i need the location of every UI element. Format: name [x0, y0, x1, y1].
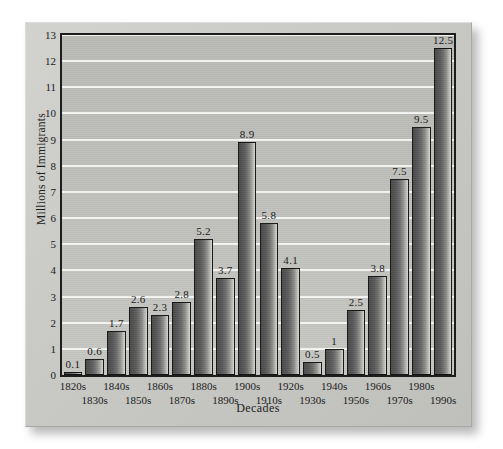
x-tick-label: 1840s: [103, 380, 129, 392]
y-tick-label: 6: [51, 212, 57, 224]
bar-value-label: 0.5: [298, 348, 326, 360]
bar-value-label: 0.1: [59, 358, 87, 370]
bar: [194, 239, 213, 375]
bar: [325, 349, 344, 375]
bar-value-label: 12.5: [429, 34, 457, 46]
bar-value-label: 2.3: [146, 301, 174, 313]
bar-value-label: 0.6: [81, 345, 109, 357]
bar: [216, 278, 235, 375]
bar-value-label: 1: [320, 335, 348, 347]
x-tick-label: 1960s: [365, 380, 391, 392]
y-tick-label: 7: [51, 186, 57, 198]
screenshot-root: 012345678910111213 Millions of Immigrant…: [0, 0, 503, 449]
x-tick-label: 1980s: [408, 380, 434, 392]
bar-value-label: 5.8: [255, 209, 283, 221]
x-tick-label: 1940s: [321, 380, 347, 392]
bar-value-label: 2.8: [168, 288, 196, 300]
bar-value-label: 9.5: [407, 113, 435, 125]
bar: [151, 315, 170, 375]
x-tick-label: 1920s: [278, 380, 304, 392]
bar: [347, 310, 366, 375]
bar: [303, 362, 322, 375]
bar-value-label: 3.8: [364, 262, 392, 274]
bar: [85, 359, 104, 375]
bar-value-label: 8.9: [233, 128, 261, 140]
x-axis-title: Decades: [60, 401, 456, 416]
bar: [412, 127, 431, 375]
y-tick-label: 2: [51, 317, 57, 329]
gridline: [62, 34, 454, 36]
bar: [107, 331, 126, 375]
y-tick-label: 5: [51, 238, 57, 250]
y-tick-label: 1: [51, 343, 57, 355]
gridline: [62, 60, 454, 62]
bar-value-label: 5.2: [190, 225, 218, 237]
bar: [390, 179, 409, 375]
bar-value-label: 7.5: [386, 165, 414, 177]
bar: [281, 268, 300, 375]
y-tick-label: 12: [45, 55, 56, 67]
bar-value-label: 4.1: [277, 254, 305, 266]
y-tick-label: 4: [51, 264, 57, 276]
bar-value-label: 3.7: [211, 264, 239, 276]
bar: [260, 223, 279, 375]
y-tick-label: 8: [51, 160, 57, 172]
gridline: [62, 112, 454, 114]
bar: [368, 276, 387, 375]
y-tick-label: 3: [51, 291, 57, 303]
x-tick-label: 1860s: [147, 380, 173, 392]
y-tick-label: 13: [45, 29, 56, 41]
x-tick-label: 1820s: [60, 380, 86, 392]
y-tick-label: 9: [51, 134, 57, 146]
y-axis-title: Millions of Immigrants: [35, 84, 47, 254]
x-tick-label: 1900s: [234, 380, 260, 392]
x-tick-label: 1880s: [190, 380, 216, 392]
bar: [172, 302, 191, 375]
y-tick-label: 0: [51, 369, 57, 381]
chart-panel: 012345678910111213 Millions of Immigrant…: [25, 22, 472, 427]
bar: [64, 372, 83, 375]
bar: [129, 307, 148, 375]
bar: [434, 48, 453, 375]
bar-value-label: 2.5: [342, 296, 370, 308]
gridline: [62, 86, 454, 88]
bar-value-label: 1.7: [102, 317, 130, 329]
bar: [238, 142, 257, 375]
